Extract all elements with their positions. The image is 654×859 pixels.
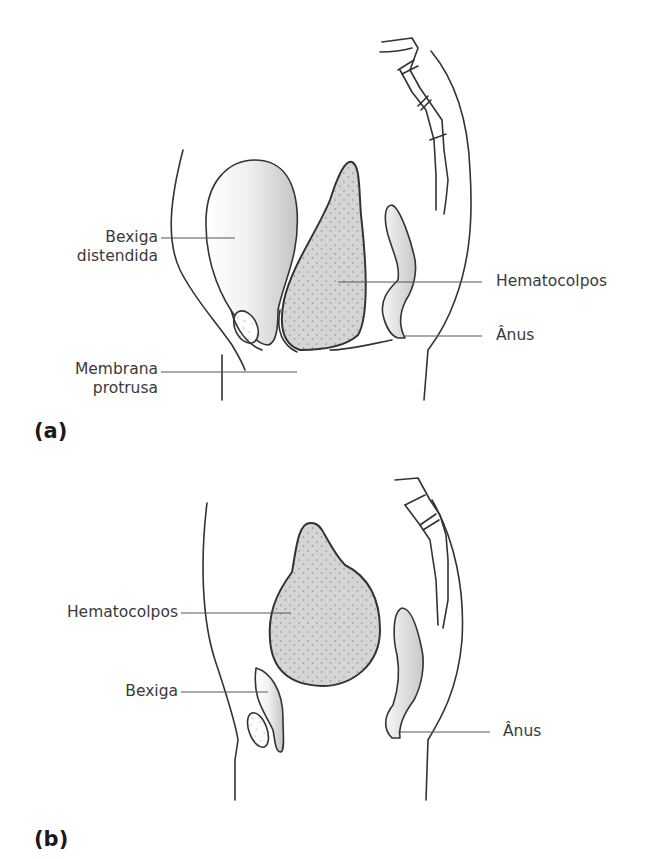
anatomy-illustration xyxy=(0,0,654,859)
label-membrana-protrusa: Membrana protrusa xyxy=(40,360,158,398)
hematocolpos-a xyxy=(282,162,366,350)
label-bexiga-distendida: Bexiga distendida xyxy=(60,228,158,266)
rectum-a xyxy=(382,205,415,338)
spine-b xyxy=(395,478,448,628)
label-anus-a: Ânus xyxy=(496,326,534,345)
panel-b-drawing xyxy=(203,478,462,800)
spine-a xyxy=(380,38,448,214)
label-hematocolpos-b: Hematocolpos xyxy=(20,603,178,622)
label-bexiga-line1: Bexiga xyxy=(60,228,158,247)
label-bexiga-b: Bexiga xyxy=(60,682,178,701)
label-hematocolpos-a: Hematocolpos xyxy=(496,272,607,291)
label-anus-b: Ânus xyxy=(503,722,541,741)
abdominal-wall-b xyxy=(203,503,238,800)
hematocolpos-b xyxy=(270,523,380,686)
label-membrana-line2: protrusa xyxy=(40,379,158,398)
panel-label-b: (b) xyxy=(34,827,68,851)
label-bexiga-line2: distendida xyxy=(60,247,158,266)
rectum-b xyxy=(386,608,423,738)
label-membrana-line1: Membrana xyxy=(40,360,158,379)
panel-a-drawing xyxy=(171,38,471,400)
panel-label-a: (a) xyxy=(34,419,67,443)
